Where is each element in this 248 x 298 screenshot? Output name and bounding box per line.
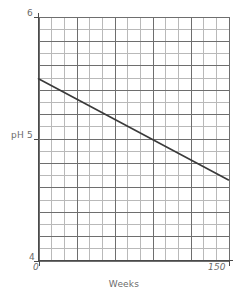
data-series-line [39, 79, 229, 180]
y-axis-mid-tick-label: pH 5 [11, 130, 33, 140]
ph-vs-weeks-chart: 6 pH 5 4 0 150 Weeks [0, 0, 248, 298]
x-axis-start-tick-label: 0 [33, 262, 39, 272]
minor-gridlines [39, 17, 229, 261]
y-axis-top-tick-label: 6 [27, 8, 33, 18]
x-axis-title: Weeks [0, 279, 248, 289]
axis-ticks [34, 18, 230, 266]
y-axis-bottom-tick-label: 4 [29, 252, 35, 262]
x-axis-end-tick-label: 150 [208, 262, 226, 272]
plot-area [0, 0, 248, 298]
